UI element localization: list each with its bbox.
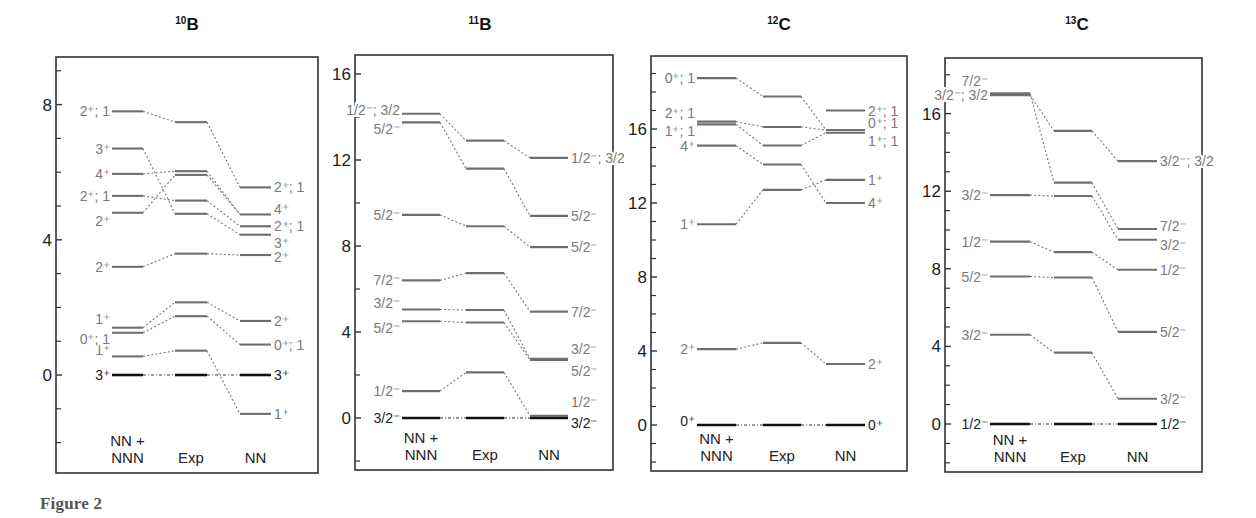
column-label: Exp	[769, 447, 795, 464]
y-axis: 0481216	[922, 75, 951, 463]
column-nn: 3/2⁻1/2⁻5/2⁻3/2⁻7/2⁻5/2⁻5/2⁻1/2⁻; 3/2	[530, 150, 625, 431]
level-label: 3/2⁻	[571, 415, 597, 431]
level-label: 3/2⁻	[962, 187, 988, 203]
level-label: 2⁺; 1	[80, 103, 111, 119]
column-nn: 1/2⁻3/2⁻5/2⁻1/2⁻3/2⁻7/2⁻3/2⁻; 3/2	[1118, 153, 1214, 432]
level-label: 5/2⁻	[571, 239, 597, 255]
column-label: NNN	[111, 449, 144, 466]
level-label: 0⁺; 1	[665, 70, 696, 86]
y-tick-label: 12	[922, 182, 941, 201]
level-connectors	[1030, 93, 1118, 424]
level-label: 3/2⁻	[962, 327, 988, 343]
level-connectors	[736, 78, 826, 425]
level-label: 1/2⁻	[962, 416, 988, 432]
y-tick-label: 12	[332, 151, 351, 170]
level-label: 5/2⁻	[962, 269, 988, 285]
level-label: 1⁺	[680, 216, 695, 232]
y-tick-label: 8	[932, 260, 941, 279]
level-label: 3⁺	[274, 367, 289, 383]
level-label: 3/2⁻	[571, 341, 597, 357]
level-label: 2⁺	[680, 341, 695, 357]
level-label: 1/2⁻	[571, 394, 597, 410]
level-label: 5/2⁻	[571, 363, 597, 379]
level-label: 0⁺; 1	[80, 331, 111, 347]
level-label: 7/2⁻	[374, 272, 400, 288]
panel-10B: 10B0483⁺1⁺0⁺; 11⁺2⁺2⁺2⁺; 14⁺3⁺2⁺; 11⁺3⁺0…	[43, 15, 318, 473]
column-label: Exp	[178, 449, 204, 466]
level-label: 3/2⁻	[374, 410, 400, 426]
column-label: NN	[245, 449, 267, 466]
level-label: 3/2⁻; 3/2	[1160, 153, 1214, 169]
level-label: 3/2⁻	[1160, 391, 1186, 407]
y-tick-label: 8	[43, 96, 52, 115]
level-label: 1⁺; 1	[665, 123, 696, 139]
column-label: NNN	[405, 446, 438, 463]
level-label: 2⁺	[95, 259, 110, 275]
y-tick-label: 0	[638, 416, 647, 435]
level-label: 5/2⁻	[571, 208, 597, 224]
level-label: 2⁺; 1	[80, 188, 111, 204]
column-label: NN +	[699, 430, 734, 447]
y-tick-label: 16	[922, 105, 941, 124]
panel-title: 12C	[767, 15, 790, 34]
level-label: 3⁺	[95, 367, 110, 383]
level-label: 5/2⁻	[1160, 324, 1186, 340]
y-tick-label: 4	[43, 231, 52, 250]
level-label: 4⁺	[274, 201, 289, 217]
column-label: NN +	[404, 429, 439, 446]
level-label: 2⁺; 1	[274, 218, 305, 234]
y-tick-label: 4	[932, 337, 941, 356]
column-exp	[763, 96, 801, 425]
level-label: 0⁺; 1	[274, 337, 305, 353]
y-tick-label: 0	[43, 366, 52, 385]
level-label: 4⁺	[680, 138, 695, 154]
level-label: 0⁺	[680, 413, 695, 429]
y-axis: 0481216	[628, 74, 657, 463]
level-label: 2⁺	[274, 313, 289, 329]
y-tick-label: 8	[342, 237, 351, 256]
level-label: 1/2⁻; 3/2	[571, 150, 625, 166]
panel-title: 10B	[175, 15, 198, 34]
column-nn-nnn: 3⁺1⁺0⁺; 11⁺2⁺2⁺2⁺; 14⁺3⁺2⁺; 1	[80, 103, 143, 383]
y-axis: 0481216	[332, 65, 361, 461]
column-label: NN +	[993, 431, 1028, 448]
level-label: 2⁺	[868, 356, 883, 372]
level-label: 1/2⁻; 3/2	[346, 102, 400, 118]
level-label: 1⁺; 1	[868, 133, 899, 149]
column-label: NNN	[700, 447, 733, 464]
column-label: NN	[538, 446, 560, 463]
level-label: 2⁺	[95, 213, 110, 229]
y-tick-label: 0	[932, 415, 941, 434]
level-label: 0⁺	[868, 417, 883, 433]
level-label: 2⁺; 1	[274, 179, 305, 195]
y-axis: 048	[43, 71, 62, 443]
y-tick-label: 0	[342, 409, 351, 428]
column-label: NN +	[110, 432, 145, 449]
level-label: 7/2⁻	[962, 73, 988, 89]
column-nn: 0⁺2⁺4⁺1⁺1⁺; 10⁺; 12⁺; 1	[826, 103, 899, 434]
column-nn: 1⁺3⁺0⁺; 12⁺2⁺3⁺2⁺; 14⁺2⁺; 1	[240, 179, 305, 421]
level-label: 3⁺	[274, 235, 289, 251]
column-exp	[1054, 131, 1092, 424]
y-tick-label: 4	[638, 342, 647, 361]
column-exp	[466, 141, 504, 418]
level-scheme-figure: 10B0483⁺1⁺0⁺; 11⁺2⁺2⁺2⁺; 14⁺3⁺2⁺; 11⁺3⁺0…	[0, 0, 1256, 518]
column-nn-nnn: 3/2⁻1/2⁻5/2⁻3/2⁻7/2⁻5/2⁻5/2⁻1/2⁻; 3/2	[346, 102, 440, 426]
y-tick-label: 8	[638, 268, 647, 287]
column-label: Exp	[472, 446, 498, 463]
column-nn-nnn: 0⁺2⁺1⁺4⁺1⁺; 12⁺; 10⁺; 1	[665, 70, 736, 429]
level-label: 1/2⁻	[1160, 262, 1186, 278]
level-connectors	[143, 111, 240, 414]
level-label: 2⁺; 1	[868, 103, 899, 119]
level-label: 5/2⁻	[374, 320, 400, 336]
level-label: 3/2⁻	[374, 295, 400, 311]
level-label: 1⁺	[95, 311, 110, 327]
column-label: Exp	[1060, 448, 1086, 465]
column-nn-nnn: 1/2⁻3/2⁻5/2⁻1/2⁻3/2⁻3/2⁻; 3/27/2⁻	[934, 73, 1030, 432]
level-label: 1⁺	[274, 406, 289, 422]
level-label: 4⁺	[95, 166, 110, 182]
panel-title: 13C	[1065, 15, 1088, 34]
y-tick-label: 16	[628, 120, 647, 139]
level-label: 2⁺	[274, 249, 289, 265]
y-tick-label: 4	[342, 323, 351, 342]
